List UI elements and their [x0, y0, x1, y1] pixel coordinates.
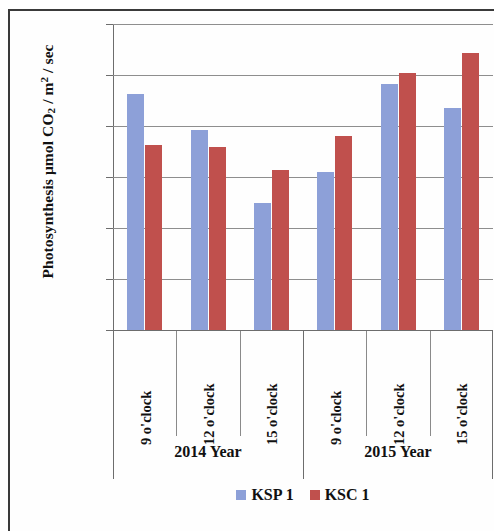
- legend-swatch-icon: [236, 490, 246, 500]
- bar-ksc-1-2: [272, 170, 289, 330]
- y-axis-tick-mark: [106, 177, 113, 178]
- y-axis-tick-mark: [106, 24, 113, 25]
- x-axis-category-label: 12 o'clock: [391, 340, 405, 445]
- bar-ksc-1-5: [462, 53, 479, 330]
- legend-entry: KSP 1: [236, 486, 293, 504]
- gridline: [113, 24, 493, 25]
- bar-ksp-1-0: [127, 94, 144, 330]
- bar-ksp-1-2: [254, 203, 271, 331]
- category-divider: [240, 331, 241, 436]
- x-axis-group-label: 2014 Year: [113, 443, 303, 461]
- bar-ksc-1-1: [209, 147, 226, 330]
- category-divider: [366, 331, 367, 436]
- bar-ksc-1-3: [335, 136, 352, 330]
- x-axis-category-label: 15 o'clock: [454, 340, 468, 445]
- y-axis-tick-mark: [106, 279, 113, 280]
- legend: KSP 1KSC 1: [113, 486, 493, 504]
- y-axis-title-prefix: Photosynthesis μmol CO: [39, 113, 56, 278]
- x-axis-category-label: 9 o'clock: [328, 340, 342, 445]
- bar-ksc-1-0: [145, 145, 162, 330]
- gridline: [113, 126, 493, 127]
- legend-entry: KSC 1: [310, 486, 370, 504]
- y-axis-tick-mark: [106, 330, 113, 331]
- bar-ksp-1-4: [381, 84, 398, 330]
- bar-ksp-1-1: [191, 130, 208, 330]
- y-axis-tick-mark: [106, 126, 113, 127]
- gridline: [113, 177, 493, 178]
- x-axis-category-label: 9 o'clock: [138, 340, 152, 445]
- bar-ksp-1-5: [444, 108, 461, 330]
- y-axis-title-mid: / m: [39, 82, 56, 107]
- category-divider: [176, 331, 177, 436]
- y-axis-title: Photosynthesis μmol CO2 / m2 / sec: [38, 0, 57, 327]
- bar-ksc-1-4: [399, 73, 416, 330]
- x-axis-category-label: 15 o'clock: [264, 340, 278, 445]
- y-axis-title-suffix: / sec: [39, 44, 56, 76]
- gridline: [113, 75, 493, 76]
- legend-swatch-icon: [310, 490, 320, 500]
- legend-label: KSP 1: [251, 486, 293, 504]
- legend-label: KSC 1: [325, 486, 370, 504]
- y-axis-tick-mark: [106, 228, 113, 229]
- bar-ksp-1-3: [317, 172, 334, 330]
- gridline: [113, 228, 493, 229]
- x-axis-category-band: 9 o'clock12 o'clock15 o'clock9 o'clock12…: [113, 331, 493, 479]
- category-divider: [430, 331, 431, 436]
- y-axis-title-sub-co2: 2: [45, 108, 57, 114]
- plot-area: [113, 24, 493, 330]
- y-axis-title-sup-m2: 2: [38, 77, 50, 83]
- y-axis-tick-mark: [106, 75, 113, 76]
- x-axis-group-label: 2015 Year: [303, 443, 493, 461]
- gridline: [113, 279, 493, 280]
- x-axis-category-label: 12 o'clock: [201, 340, 215, 445]
